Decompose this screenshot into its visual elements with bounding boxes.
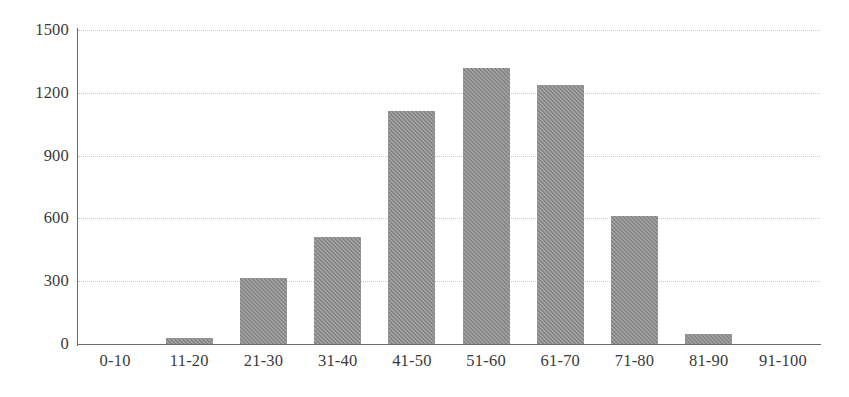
x-tick: 11-20: [152, 351, 226, 371]
bar[interactable]: [463, 68, 510, 344]
x-tick-label: 81-90: [689, 351, 729, 370]
bar[interactable]: [537, 85, 584, 344]
x-tick-label: 41-50: [392, 351, 432, 370]
x-axis-line: [77, 344, 821, 345]
x-axis-ticks: 0-1011-2021-3031-4041-5051-6061-7071-808…: [78, 351, 820, 371]
y-tick-label: 900: [44, 146, 69, 166]
y-tick-label: 1500: [35, 20, 69, 40]
x-tick: 21-30: [226, 351, 300, 371]
x-tick: 91-100: [746, 351, 820, 371]
x-tick: 71-80: [597, 351, 671, 371]
x-tick: 81-90: [672, 351, 746, 371]
bar-slot: [152, 30, 226, 344]
y-tick-label: 300: [44, 271, 69, 291]
bar[interactable]: [240, 278, 287, 344]
bar-slot: [449, 30, 523, 344]
x-tick-label: 0-10: [100, 351, 131, 370]
y-tick-label: 0: [61, 334, 69, 354]
x-tick: 41-50: [375, 351, 449, 371]
x-tick-label: 11-20: [170, 351, 209, 370]
bar-slot: [301, 30, 375, 344]
bar-slot: [597, 30, 671, 344]
bar-slot: [672, 30, 746, 344]
bar-chart: 030060090012001500 0-1011-2021-3031-4041…: [0, 0, 849, 397]
bar-series: [78, 30, 820, 344]
y-tick-label: 600: [44, 208, 69, 228]
bar[interactable]: [388, 111, 435, 344]
bar[interactable]: [166, 338, 213, 344]
x-tick-label: 51-60: [466, 351, 506, 370]
x-tick: 0-10: [78, 351, 152, 371]
x-tick: 61-70: [523, 351, 597, 371]
bar-slot: [226, 30, 300, 344]
x-tick-label: 71-80: [615, 351, 655, 370]
bar-slot: [746, 30, 820, 344]
x-tick: 31-40: [301, 351, 375, 371]
x-tick-label: 21-30: [244, 351, 284, 370]
y-tick-label: 1200: [35, 83, 69, 103]
bar-slot: [78, 30, 152, 344]
bar[interactable]: [314, 237, 361, 344]
bar-slot: [375, 30, 449, 344]
x-tick-label: 91-100: [759, 351, 807, 370]
x-tick: 51-60: [449, 351, 523, 371]
bar[interactable]: [685, 334, 732, 344]
x-tick-label: 61-70: [541, 351, 581, 370]
bar[interactable]: [611, 216, 658, 344]
bar-slot: [523, 30, 597, 344]
x-tick-label: 31-40: [318, 351, 358, 370]
plot-area: 030060090012001500: [78, 30, 820, 344]
